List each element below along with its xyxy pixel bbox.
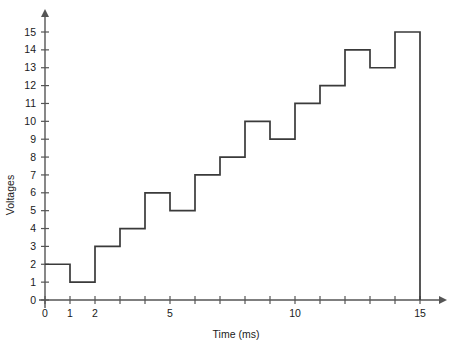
step-chart: 0123456789101112131415 01251015 Voltages… (0, 0, 454, 355)
y-tick-label: 13 (24, 61, 36, 73)
y-tick-label: 4 (30, 222, 36, 234)
y-axis-title: Voltages (4, 175, 16, 215)
x-axis-title: Time (ms) (213, 328, 260, 340)
y-tick-label: 9 (30, 133, 36, 145)
y-tick-label: 11 (25, 97, 36, 109)
y-tick-label: 7 (30, 169, 36, 181)
y-tick-label: 14 (24, 43, 36, 55)
y-tick-label: 8 (30, 151, 36, 163)
chart-canvas: 0123456789101112131415 01251015 Voltages… (0, 0, 454, 355)
y-tick-label: 3 (30, 240, 36, 252)
y-tick-label: 0 (30, 294, 36, 306)
step-line (45, 32, 420, 300)
x-tick-label: 0 (42, 307, 48, 319)
x-tick-label: 1 (67, 307, 73, 319)
y-tick-label: 12 (24, 79, 36, 91)
y-tick-label: 1 (30, 276, 36, 288)
y-axis-tick-labels: 0123456789101112131415 (24, 26, 36, 306)
x-tick-label: 10 (289, 307, 301, 319)
x-tick-label: 5 (167, 307, 173, 319)
y-tick-label: 10 (24, 115, 36, 127)
y-tick-label: 2 (30, 258, 36, 270)
x-tick-label: 15 (414, 307, 426, 319)
x-tick-label: 2 (92, 307, 98, 319)
x-axis-tick-labels: 01251015 (42, 307, 426, 319)
y-tick-label: 5 (30, 204, 36, 216)
y-tick-label: 6 (30, 186, 36, 198)
step-series-voltage (45, 32, 420, 300)
y-tick-label: 15 (24, 26, 36, 38)
